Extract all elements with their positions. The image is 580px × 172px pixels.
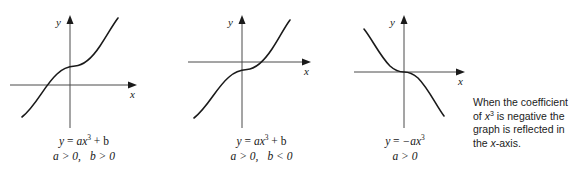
caption-2-equation: y = ax3 + b (174, 134, 349, 149)
y-axis-label-2: y (227, 16, 233, 28)
caption-1-conditions: a > 0,b > 0 (0, 149, 174, 164)
note-text: When the coefficient of x3 is negative t… (473, 96, 577, 150)
y-axis-label-1: y (55, 16, 61, 28)
x-axis-label-3: x (457, 75, 463, 87)
note-line-2: of x3 is negative the (473, 110, 564, 122)
caption-3-equation: y = −ax3 (340, 134, 470, 149)
graph-panel-2: x y y = ax3 + b a > 0,b < 0 (180, 0, 355, 172)
caption-3: y = −ax3 a > 0 (340, 134, 470, 164)
x-axis-label-2: x (303, 65, 309, 77)
caption-1-equation: y = ax3 + b (0, 134, 174, 149)
y-axis-arrowhead-3 (401, 15, 408, 24)
graph-panel-3: x y y = −ax3 a > 0 (348, 0, 478, 172)
note-line-3: graph is reflected in (473, 123, 565, 135)
caption-2: y = ax3 + b a > 0,b < 0 (174, 134, 349, 164)
figure-cubic-graphs: x y y = ax3 + b a > 0,b > 0 x (0, 0, 580, 172)
y-axis-label-3: y (389, 16, 395, 28)
plot-area-2: x y (180, 6, 355, 130)
plot-area-3: x y (348, 6, 478, 130)
caption-1: y = ax3 + b a > 0,b > 0 (0, 134, 174, 164)
plot-area-1: x y (0, 6, 180, 130)
y-axis-arrowhead-2 (239, 15, 246, 24)
x-axis-label-1: x (129, 88, 135, 100)
caption-3-conditions: a > 0 (340, 149, 470, 164)
graph-panel-1: x y y = ax3 + b a > 0,b > 0 (0, 0, 180, 172)
note-line-1: When the coefficient (473, 96, 568, 108)
y-axis-arrowhead-1 (67, 15, 74, 24)
caption-2-conditions: a > 0,b < 0 (174, 149, 349, 164)
note-line-4: the x-axis. (473, 137, 521, 149)
